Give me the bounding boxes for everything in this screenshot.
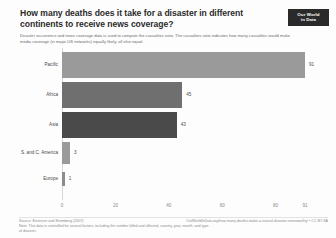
x-axis: 02040608091 — [0, 200, 336, 212]
chart-header: How many deaths does it take for a disas… — [20, 8, 328, 44]
footer-divider — [19, 217, 328, 218]
chart-row: Africa45 — [0, 82, 336, 108]
source-note: Source: Eisensee and Strömberg (2007) No… — [19, 219, 209, 234]
category-label: Pacific — [0, 62, 58, 68]
x-axis-tick: 80 — [273, 203, 278, 208]
attribution[interactable]: OurWorldInData.org/how-many-deaths-make-… — [186, 219, 328, 224]
category-label: Asia — [0, 122, 58, 128]
attribution-line: OurWorldInData.org/how-many-deaths-make-… — [186, 219, 328, 224]
bar-value-label: 91 — [309, 62, 314, 68]
category-label: Africa — [0, 92, 58, 98]
bar-chart: 02040608091 Pacific91Africa45Asia43S. an… — [0, 48, 336, 210]
chart-page: How many deaths does it take for a disas… — [0, 0, 336, 238]
category-label: Europe — [0, 176, 58, 182]
x-axis-tick: 20 — [113, 203, 118, 208]
bar-africa[interactable] — [62, 82, 182, 108]
bar-value-label: 43 — [181, 122, 186, 128]
chart-subtitle: Disaster occurrence and news coverage da… — [20, 33, 296, 44]
logo-line-2: in Data — [288, 17, 329, 22]
bar-value-label: 3 — [74, 150, 77, 156]
bar-value-label: 45 — [186, 92, 191, 98]
bar-asia[interactable] — [62, 112, 177, 138]
category-label: S. and C. America — [0, 150, 58, 156]
note-line: Note: This data is controlled for severa… — [19, 224, 209, 234]
chart-footer: Source: Eisensee and Strömberg (2007) No… — [19, 217, 328, 231]
chart-row: S. and C. America3 — [0, 142, 336, 164]
chart-row: Asia43 — [0, 112, 336, 138]
our-world-in-data-logo[interactable]: Our World in Data — [288, 9, 329, 26]
bar-value-label: 1 — [69, 176, 72, 182]
chart-row: Pacific91 — [0, 52, 336, 78]
bar-s-and-c-america[interactable] — [62, 142, 70, 164]
bar-pacific[interactable] — [62, 52, 305, 78]
x-axis-tick: 0 — [61, 203, 64, 208]
x-axis-tick: 40 — [166, 203, 171, 208]
chart-row: Europe1 — [0, 172, 336, 186]
page-title: How many deaths does it take for a disas… — [20, 8, 282, 30]
x-axis-tick: 91 — [302, 203, 307, 208]
x-axis-tick: 60 — [220, 203, 225, 208]
bar-europe[interactable] — [62, 172, 65, 186]
